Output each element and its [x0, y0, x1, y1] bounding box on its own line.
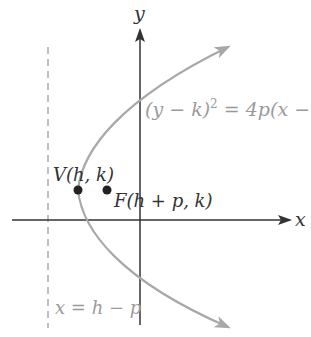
equation-exponent: 2	[210, 97, 218, 111]
equation-rhs: = 4p(x − h	[218, 98, 311, 120]
vertex-label: V(h, k)	[53, 164, 114, 185]
x-axis-label: x	[295, 208, 306, 230]
equation-label: (y − k)2 = 4p(x − h	[145, 97, 311, 120]
y-axis-label: y	[133, 2, 145, 24]
directrix-label: x = h − p	[55, 297, 142, 318]
vertex-point	[74, 186, 83, 195]
equation-lhs: (y − k)	[145, 98, 210, 120]
focus-label: F(h + p, k)	[113, 190, 213, 211]
focus-point	[103, 186, 112, 195]
parabola-diagram: y x (y − k)2 = 4p(x − h V(h, k) F(h + p,…	[0, 0, 311, 337]
